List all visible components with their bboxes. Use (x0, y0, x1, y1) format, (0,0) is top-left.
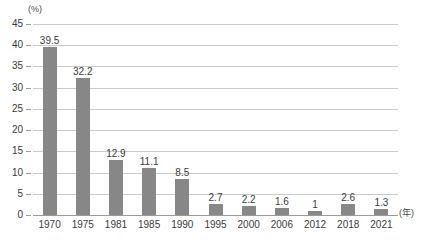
bar-value-label: 2.7 (209, 192, 223, 203)
bar (175, 179, 189, 215)
y-tick-label: 35 (12, 61, 23, 71)
bar-group: 1 (300, 24, 330, 215)
bar-value-label: 2.6 (341, 192, 355, 203)
x-tick-label: 2006 (271, 219, 293, 231)
bar (43, 47, 57, 215)
bar (109, 160, 123, 215)
bar (142, 168, 156, 215)
x-tick-label: 1990 (171, 219, 193, 231)
y-tick-label: 10 (12, 168, 23, 178)
y-tick-label: 25 (12, 104, 23, 114)
bar (341, 204, 355, 215)
bar-value-label: 12.9 (106, 148, 125, 159)
bar-group: 32.2 (68, 24, 98, 215)
bar-group: 2.6 (333, 24, 363, 215)
x-axis: 1970197519811985199019952000200620122018… (33, 219, 398, 235)
x-tick-label: 1981 (105, 219, 127, 231)
y-tick-mark (26, 45, 31, 46)
bar-group: 1.3 (366, 24, 396, 215)
y-tick-mark (26, 194, 31, 195)
y-tick-label: 30 (12, 83, 23, 93)
y-tick-mark (26, 109, 31, 110)
bar-group: 2.7 (201, 24, 231, 215)
plot-area: 39.532.212.911.18.52.72.21.612.61.3 (33, 24, 398, 215)
y-tick-label: 0 (17, 210, 23, 220)
x-tick-label: 1985 (138, 219, 160, 231)
bar-value-label: 32.2 (73, 66, 92, 77)
bar (275, 208, 289, 215)
x-tick-label: 1970 (38, 219, 60, 231)
x-tick-label: 2018 (337, 219, 359, 231)
x-tick-label: 2000 (238, 219, 260, 231)
bar-value-label: 39.5 (40, 35, 59, 46)
y-tick-mark (26, 88, 31, 89)
y-axis: 051015202530354045 (0, 24, 31, 215)
y-tick-label: 5 (17, 189, 23, 199)
x-tick-label: 1975 (72, 219, 94, 231)
y-tick-mark (26, 215, 31, 216)
bar-group: 39.5 (35, 24, 65, 215)
bar-value-label: 1.3 (374, 197, 388, 208)
bar (374, 209, 388, 215)
bar (242, 206, 256, 215)
bar (209, 204, 223, 215)
bar-chart: (%) 051015202530354045 39.532.212.911.18… (0, 0, 425, 247)
bar-value-label: 1.6 (275, 196, 289, 207)
y-tick-label: 15 (12, 146, 23, 156)
bar-group: 11.1 (134, 24, 164, 215)
y-tick-label: 45 (12, 19, 23, 29)
y-tick-mark (26, 130, 31, 131)
y-tick-mark (26, 66, 31, 67)
bar (76, 78, 90, 215)
bar (308, 211, 322, 215)
bar-value-label: 2.2 (242, 194, 256, 205)
bar-value-label: 1 (312, 199, 318, 210)
y-tick-label: 40 (12, 40, 23, 50)
bar-value-label: 11.1 (140, 156, 159, 167)
bar-group: 12.9 (101, 24, 131, 215)
y-tick-mark (26, 151, 31, 152)
bar-group: 2.2 (234, 24, 264, 215)
x-axis-title: (年) (399, 208, 414, 219)
bar-group: 8.5 (167, 24, 197, 215)
x-tick-label: 2021 (370, 219, 392, 231)
bar-value-label: 8.5 (175, 167, 189, 178)
y-tick-mark (26, 24, 31, 25)
axis-baseline (33, 215, 398, 216)
bar-group: 1.6 (267, 24, 297, 215)
y-axis-unit-label: (%) (28, 4, 42, 15)
x-tick-label: 2012 (304, 219, 326, 231)
y-tick-mark (26, 173, 31, 174)
x-tick-label: 1995 (204, 219, 226, 231)
y-tick-label: 20 (12, 125, 23, 135)
